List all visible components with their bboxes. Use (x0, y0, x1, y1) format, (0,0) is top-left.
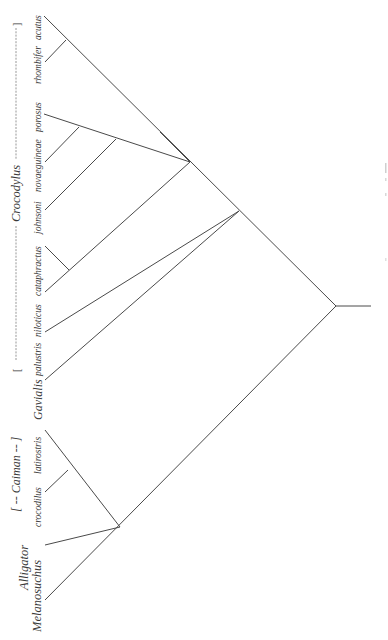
branch-novaeguineae (45, 127, 79, 162)
branch-latirostris (45, 430, 120, 527)
label-cataphractus: cataphractus (33, 246, 43, 296)
branch-crocodilus (45, 470, 68, 492)
crocodylus-bracket-close: ] (11, 23, 22, 26)
branch-johnsoni (45, 139, 116, 210)
cladogram: acutus rhombifer porosus novaeguineae jo… (0, 0, 388, 640)
branch-melanosuchus-to-root (45, 306, 336, 600)
branch-rhombifer (45, 40, 66, 62)
group-labels: ] Crocodylus [ [ -- Caiman -- ] (9, 23, 23, 512)
label-gavialis: Gavialis (31, 379, 45, 420)
label-niloticus: niloticus (33, 304, 43, 337)
branch-porosus (44, 114, 190, 162)
tip-labels: acutus rhombifer porosus novaeguineae jo… (17, 15, 45, 633)
label-caiman-group: [ -- Caiman -- ] (9, 436, 23, 512)
label-acutus: acutus (33, 15, 43, 40)
label-latirostris: latirostris (33, 437, 43, 474)
label-rhombifer: rhombifer (33, 46, 43, 84)
label-crocodylus-genus: Crocodylus (9, 165, 23, 222)
label-porosus: porosus (33, 102, 43, 133)
label-palustris: palustris (33, 342, 43, 377)
faint-edge-marks (385, 163, 387, 261)
crocodylus-bracket-open: [ (11, 369, 22, 372)
label-melanosuchus: Melanosuchus (30, 560, 44, 633)
branch-cataphractus (45, 246, 69, 270)
label-johnsoni: johnsoni (33, 201, 43, 236)
label-alligator: Alligator (17, 545, 31, 591)
branch-palustris (45, 211, 239, 332)
tree-branches (44, 16, 371, 600)
label-crocodilus: crocodilus (33, 487, 43, 527)
branch-gavialis (45, 211, 239, 380)
label-novaeguineae: novaeguineae (33, 139, 43, 192)
branch-acutus-to-root (44, 16, 336, 306)
